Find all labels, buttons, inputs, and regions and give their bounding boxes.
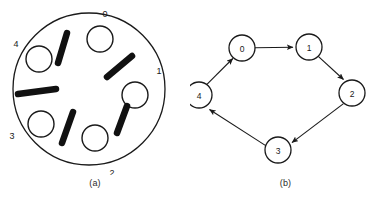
figure-root: 0 1 2 3 4 (a) [0,0,381,200]
panel-a-ring-diagram: 0 1 2 3 4 (a) [0,0,190,200]
edge-0-to-1 [255,47,293,48]
graph-node-label-0: 0 [240,44,245,54]
small-circle-3 [28,111,54,137]
bar-2 [117,106,127,133]
ring-diagram-svg: 0 1 2 3 4 [0,0,190,175]
graph-node-label-4: 4 [197,91,202,101]
panel-b-graph-diagram: 0 1 2 3 4 (b) [190,0,381,200]
bar-1 [107,56,132,77]
edge-1-to-2 [318,56,343,79]
ring-position-label-3: 3 [9,131,14,141]
bar-4 [18,89,56,94]
bar-0 [58,33,67,63]
ring-position-label-4: 4 [13,39,18,49]
graph-diagram-svg: 0 1 2 3 4 [190,0,381,175]
panel-b-caption: (b) [190,178,381,188]
small-circle-2 [82,125,108,151]
edge-2-to-3 [292,104,344,143]
ring-position-label-2: 2 [109,168,114,175]
graph-node-label-2: 2 [350,89,355,99]
small-circle-0 [87,26,113,52]
small-circle-4 [26,46,52,72]
graph-node-label-1: 1 [307,43,312,53]
ring-position-label-0: 0 [102,9,107,19]
ring-position-label-1: 1 [156,66,161,76]
edge-3-to-4 [210,110,266,146]
graph-node-label-3: 3 [276,146,281,156]
panel-a-caption: (a) [0,178,190,188]
bar-3 [62,112,73,143]
edge-4-to-0 [207,59,233,85]
